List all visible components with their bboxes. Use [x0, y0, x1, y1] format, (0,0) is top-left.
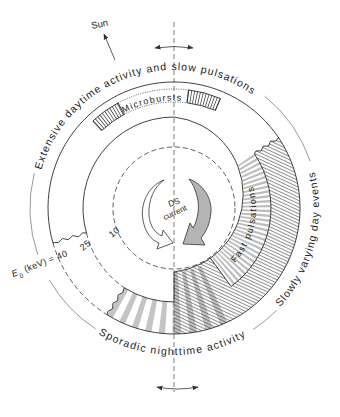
magnetosphere-activity-diagram: Sun Extensive daytime activity and slow … [0, 0, 340, 417]
